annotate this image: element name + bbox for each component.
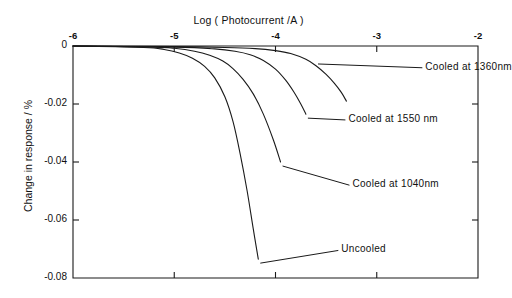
axes-frame — [73, 46, 478, 278]
tick-marks — [73, 46, 478, 278]
label-leader-line — [318, 64, 422, 68]
data-curve — [73, 46, 346, 101]
data-curve — [73, 46, 281, 162]
label-leader-line — [283, 166, 350, 185]
leader-lines — [260, 64, 422, 263]
label-leader-line — [260, 250, 338, 263]
data-curve — [73, 46, 258, 259]
data-curves — [73, 46, 346, 259]
label-leader-line — [308, 118, 346, 120]
